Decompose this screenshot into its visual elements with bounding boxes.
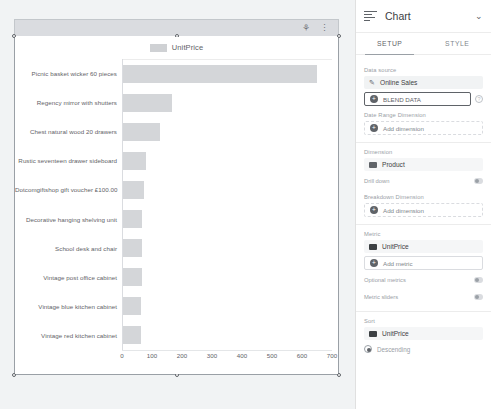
- add-metric-button[interactable]: + Add metric: [364, 256, 483, 270]
- radio-icon[interactable]: [364, 345, 372, 353]
- sort-field-chip[interactable]: UnitPrice: [364, 327, 483, 340]
- dimension-section: Dimension Product Drill down Breakdown D…: [356, 149, 491, 217]
- plus-icon: +: [370, 206, 378, 214]
- pencil-icon[interactable]: ✎: [369, 79, 375, 87]
- panel-header: Chart ⌄: [356, 0, 491, 33]
- x-axis-tick: 400: [237, 352, 247, 359]
- metric-sliders-label: Metric sliders: [364, 294, 398, 300]
- optional-metrics-row: Optional metrics: [364, 273, 483, 287]
- sort-label: Sort: [364, 318, 483, 324]
- y-axis-line: [122, 59, 123, 350]
- blend-data-button[interactable]: + BLEND DATA: [364, 92, 471, 106]
- drill-down-toggle[interactable]: [474, 178, 483, 184]
- bar-category-label: Vintage post office cabinet: [15, 274, 122, 281]
- sort-section: Sort UnitPrice Descending: [356, 318, 491, 353]
- add-breakdown-dimension-label: Add dimension: [383, 207, 424, 214]
- bar-category-label: Decorative hanging shelving unit: [15, 216, 122, 223]
- data-source-chip[interactable]: ✎ Online Sales: [364, 76, 483, 89]
- panel-tabs: SETUP STYLE: [356, 33, 491, 55]
- bar-row[interactable]: Vintage blue kitchen cabinet: [15, 292, 332, 321]
- bar-category-label: Picnic basket wicker 60 pieces: [15, 70, 122, 77]
- tab-setup[interactable]: SETUP: [356, 33, 424, 54]
- bar-row[interactable]: Picnic basket wicker 60 pieces: [15, 59, 332, 88]
- drill-down-label: Drill down: [364, 178, 389, 184]
- bar-chart[interactable]: UnitPrice Picnic basket wicker 60 pieces…: [15, 37, 338, 374]
- bar[interactable]: [122, 65, 317, 83]
- bar-track: [122, 117, 332, 146]
- bar-chart-icon: [364, 11, 377, 22]
- data-source-name: Online Sales: [380, 79, 417, 86]
- add-breakdown-dimension-button[interactable]: + Add dimension: [364, 203, 483, 217]
- sort-field-name: UnitPrice: [382, 330, 409, 337]
- divider: [356, 142, 491, 143]
- sort-direction-descending[interactable]: Descending: [364, 345, 483, 353]
- bar[interactable]: [122, 268, 142, 286]
- bar-rows: Picnic basket wicker 60 piecesRegency mi…: [15, 59, 332, 350]
- dimension-field-name: Product: [382, 161, 405, 168]
- bar-track: [122, 292, 332, 321]
- bar-row[interactable]: Vintage post office cabinet: [15, 263, 332, 292]
- optional-metrics-label: Optional metrics: [364, 277, 406, 283]
- add-date-dimension-button[interactable]: + Add dimension: [364, 121, 483, 135]
- metric-sliders-row: Metric sliders: [364, 290, 483, 304]
- bar-track: [122, 59, 332, 88]
- chevron-down-icon[interactable]: ⌄: [475, 11, 483, 21]
- bar-track: [122, 175, 332, 204]
- more-vert-icon[interactable]: ⋮: [320, 24, 329, 33]
- blend-data-label: BLEND DATA: [383, 96, 421, 103]
- properties-panel: Chart ⌄ SETUP STYLE Data source ✎ Online…: [355, 0, 491, 409]
- bar[interactable]: [122, 94, 172, 112]
- plus-icon: +: [370, 259, 378, 267]
- bar[interactable]: [122, 123, 160, 141]
- bar[interactable]: [122, 326, 141, 344]
- bar-row[interactable]: Vintage red kitchen cabinet: [15, 321, 332, 350]
- blend-data-row: + BLEND DATA ?: [364, 92, 483, 106]
- bar-category-label: Vintage blue kitchen cabinet: [15, 303, 122, 310]
- filter-icon[interactable]: ⚘: [302, 24, 310, 33]
- drill-down-row: Drill down: [364, 174, 483, 188]
- number-field-icon: [369, 331, 377, 337]
- panel-body: Data source ✎ Online Sales + BLEND DATA …: [356, 55, 491, 409]
- bar-category-label: Vintage red kitchen cabinet: [15, 332, 122, 339]
- bar-row[interactable]: Decorative hanging shelving unit: [15, 204, 332, 233]
- bar-track: [122, 321, 332, 350]
- bar[interactable]: [122, 297, 141, 315]
- help-icon[interactable]: ?: [475, 95, 483, 103]
- bar-row[interactable]: Regency mirror with shutters: [15, 88, 332, 117]
- x-axis-tick: 600: [297, 352, 307, 359]
- number-field-icon: [369, 244, 377, 250]
- x-axis-tick: 100: [147, 352, 157, 359]
- x-axis-tick: 500: [267, 352, 277, 359]
- x-axis-baseline: [122, 350, 332, 351]
- x-axis-tick: 200: [177, 352, 187, 359]
- x-axis-tick: 300: [207, 352, 217, 359]
- metric-sliders-toggle[interactable]: [474, 294, 483, 300]
- bar-row[interactable]: Dotcomgiftshop gift voucher £100.00: [15, 175, 332, 204]
- bar[interactable]: [122, 181, 144, 199]
- data-source-label: Data source: [364, 67, 483, 73]
- bar-category-label: Regency mirror with shutters: [15, 99, 122, 106]
- data-source-section: Data source ✎ Online Sales + BLEND DATA …: [356, 67, 491, 135]
- bar-track: [122, 263, 332, 292]
- panel-title: Chart: [385, 10, 467, 22]
- x-axis-tick: 700: [327, 352, 337, 359]
- bar-row[interactable]: Rustic seventeen drawer sideboard: [15, 146, 332, 175]
- dimension-field-chip[interactable]: Product: [364, 158, 483, 171]
- metric-field-name: UnitPrice: [382, 243, 409, 250]
- sort-direction-label: Descending: [377, 346, 410, 353]
- bar-row[interactable]: School desk and chair: [15, 234, 332, 263]
- bar-row[interactable]: Chest natural wood 20 drawers: [15, 117, 332, 146]
- legend-label: UnitPrice: [172, 43, 203, 52]
- bar[interactable]: [122, 239, 142, 257]
- plot-area: Picnic basket wicker 60 piecesRegency mi…: [15, 59, 332, 350]
- bar-category-label: Dotcomgiftshop gift voucher £100.00: [15, 186, 122, 193]
- bar-category-label: Rustic seventeen drawer sideboard: [15, 157, 122, 164]
- bar[interactable]: [122, 152, 146, 170]
- optional-metrics-toggle[interactable]: [474, 277, 483, 283]
- text-field-icon: [369, 162, 377, 168]
- bar[interactable]: [122, 210, 142, 228]
- bar-category-label: Chest natural wood 20 drawers: [15, 128, 122, 135]
- bar-track: [122, 234, 332, 263]
- tab-style[interactable]: STYLE: [424, 33, 491, 54]
- metric-field-chip[interactable]: UnitPrice: [364, 240, 483, 253]
